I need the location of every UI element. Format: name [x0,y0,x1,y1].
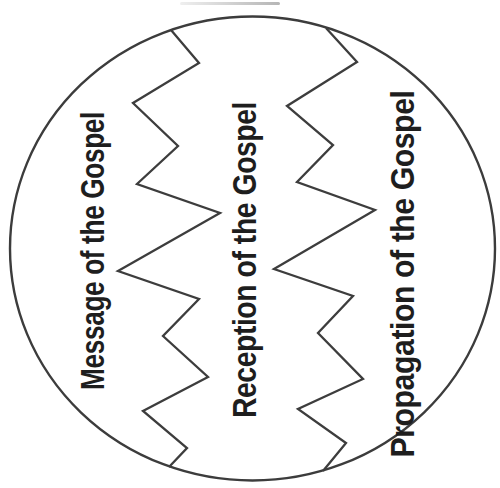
scanned-diagram-page: Message of the Gospel Reception of the G… [0,0,500,488]
gospel-circle-diagram: Message of the Gospel Reception of the G… [0,0,500,488]
zigzag-divider-right [274,28,375,471]
section-label-message: Message of the Gospel [73,112,111,390]
zigzag-divider-left [118,30,220,467]
section-label-reception: Reception of the Gospel [225,102,263,418]
section-label-propagation: Propagation of the Gospel [383,91,421,458]
